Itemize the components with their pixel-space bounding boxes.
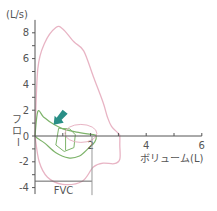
y-axis-title: フロー (12, 114, 23, 147)
flow-volume-chart: 86420-2-4246FVC (L/s) ボリューム(L) フロー (0, 0, 217, 211)
y-axis-title-char: フ (12, 114, 22, 125)
y-tick-label: -2 (19, 156, 29, 167)
x-tick-label: 4 (143, 140, 149, 151)
x-axis-title: ボリューム(L) (140, 153, 203, 164)
y-tick-label: 2 (23, 105, 29, 116)
y-axis-unit: (L/s) (6, 9, 28, 20)
highlight-arrow-icon (54, 110, 68, 125)
y-axis-title-char: ロ (12, 125, 22, 136)
y-tick-label: -4 (19, 182, 29, 193)
x-tick-label: 2 (87, 140, 93, 151)
y-tick-label: 4 (23, 79, 29, 90)
plot-area: 86420-2-4246FVC (19, 20, 205, 196)
y-tick-label: 6 (23, 53, 29, 64)
fvc-label: FVC (54, 185, 74, 196)
y-axis-title-char: ー (12, 137, 23, 147)
predicted-loop-curve (35, 26, 120, 184)
x-tick-label: 6 (199, 140, 205, 151)
y-tick-label: 8 (23, 27, 29, 38)
